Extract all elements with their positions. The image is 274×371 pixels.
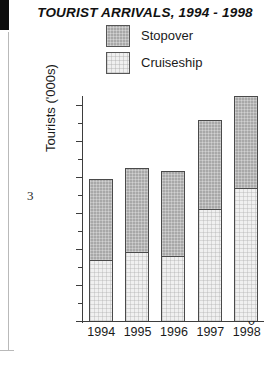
y-tick-500 [76,141,82,142]
bar-segment-cruiseship-1994[interactable] [89,260,113,321]
y-tick-minor-50 [78,303,82,304]
y-tick-minor-350 [78,195,82,196]
y-tick-300 [76,213,82,214]
bar-1996[interactable] [161,95,185,321]
y-tick-minor-450 [78,159,82,160]
y-tick-400 [76,177,82,178]
y-tick-minor-250 [78,231,82,232]
legend-label-stopover: Stopover [141,28,193,43]
bar-segment-stopover-1997[interactable] [198,120,222,209]
y-tick-600 [76,105,82,106]
page-margin-rule [8,32,9,350]
stopover-swatch-icon [106,25,130,47]
bar-1995[interactable] [125,95,149,321]
legend-item-cruiseship: Cruiseship [106,50,202,75]
bar-segment-stopover-1996[interactable] [161,171,185,256]
x-axis-label-1995: 1995 [121,325,155,339]
bar-1997[interactable] [198,95,222,321]
bar-segment-stopover-1995[interactable] [125,168,149,252]
chart-legend: Stopover Cruiseship [106,23,202,77]
bar-segment-stopover-1994[interactable] [89,179,113,260]
page-number: 3 [27,188,34,204]
y-tick-0 [76,321,82,322]
page-margin-rule-bottom [0,350,14,351]
bar-1994[interactable] [89,95,113,321]
bar-segment-stopover-1998[interactable] [234,96,258,188]
y-tick-200 [76,249,82,250]
bar-segment-cruiseship-1996[interactable] [161,256,185,321]
x-axis-label-1994: 1994 [84,325,118,339]
legend-label-cruiseship: Cruiseship [141,55,202,70]
legend-item-stopover: Stopover [106,23,202,48]
x-axis-labels: 19941995199619971998 [83,325,265,339]
cruiseship-swatch-icon [106,52,130,74]
x-axis-label-1996: 1996 [157,325,191,339]
y-tick-minor-550 [78,123,82,124]
bar-segment-cruiseship-1998[interactable] [234,188,258,321]
bar-segment-cruiseship-1997[interactable] [198,209,222,321]
x-axis-label-1998: 1998 [230,325,264,339]
y-axis-title: Tourists ('000s) [43,64,58,152]
chart-title: TOURIST ARRIVALS, 1994 - 1998 [0,5,274,20]
bar-segment-cruiseship-1995[interactable] [125,252,149,321]
y-tick-minor-150 [78,267,82,268]
plot-area: 0100200300400500600 [82,96,264,322]
x-axis-label-1997: 1997 [193,325,227,339]
x-axis-line [82,321,264,322]
bar-group [83,95,264,321]
y-tick-100 [76,285,82,286]
bar-1998[interactable] [234,95,258,321]
